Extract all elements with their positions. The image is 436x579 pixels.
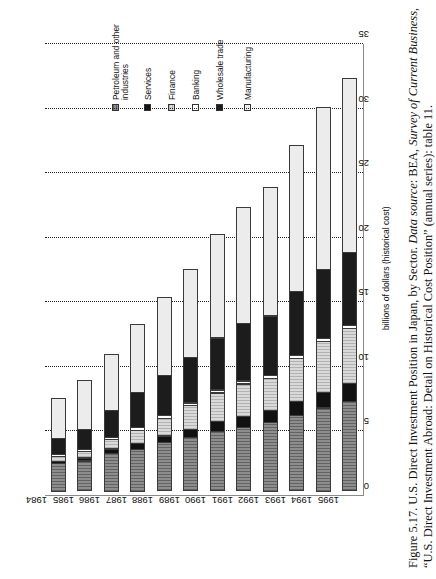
value-tick-10: 10 (358, 352, 369, 363)
value-axis-title: billions of dollars (historical cost) (381, 206, 391, 330)
bar-segment (157, 375, 172, 416)
caption-line-1: Figure 5.17. U.S. Direct Investment Posi… (406, 118, 421, 568)
bar-segment (342, 328, 357, 384)
bar-segment (236, 427, 251, 492)
caption-text-c: : BEA, (406, 146, 420, 184)
bar-row (157, 297, 172, 496)
bar-segment (263, 316, 278, 377)
bar-segment (236, 323, 251, 381)
category-label-1986: 1986 (79, 495, 100, 506)
bar-segment (236, 384, 251, 418)
bar-segment (157, 436, 172, 444)
chart-plot: 05101520253035 1984198519861987198819891… (39, 24, 391, 554)
bar-segment (157, 442, 172, 491)
bar-row (77, 380, 92, 496)
bar-row (289, 145, 304, 496)
bar-segment (342, 383, 357, 402)
figure-caption: Figure 5.17. U.S. Direct Investment Posi… (406, 118, 436, 568)
category-label-1994: 1994 (291, 495, 312, 506)
value-tick-25: 25 (358, 158, 369, 169)
category-label-1992: 1992 (238, 495, 259, 506)
bar-segment (77, 451, 92, 459)
bar-segment (289, 291, 304, 356)
bar-segment (183, 405, 198, 430)
value-tick-15: 15 (358, 287, 369, 298)
bar-segment (77, 429, 92, 450)
bar-segment (183, 429, 198, 438)
value-tick-30: 30 (358, 94, 369, 105)
bar-segment (104, 410, 119, 438)
caption-text-b: Data source (406, 183, 420, 243)
bar-segment (210, 421, 225, 431)
bar-segment (51, 456, 66, 462)
bar-row (263, 187, 278, 496)
bar-segment (130, 392, 145, 428)
bar-segment (289, 145, 304, 292)
bar-segment (130, 443, 145, 449)
bar-segment (316, 269, 331, 339)
bar-row (210, 234, 225, 496)
bar-segment (342, 401, 357, 491)
caption-text-d: Survey of Current Business (406, 11, 420, 146)
bar-segment (210, 393, 225, 423)
bar-segment (130, 430, 145, 444)
bar-segment (316, 107, 331, 270)
bar-segment (51, 438, 66, 455)
bar-segment (210, 338, 225, 391)
caption-text-e: , (406, 8, 420, 11)
bar-segment (289, 401, 304, 416)
category-label-1991: 1991 (212, 495, 233, 506)
gridline-35 (45, 43, 363, 44)
bar-row (183, 269, 198, 496)
bar-segment (157, 418, 172, 436)
caption-text-a: Figure 5.17. U.S. Direct Investment Posi… (406, 244, 420, 568)
bar-row (104, 354, 119, 496)
bar-segment (289, 415, 304, 491)
value-tick-20: 20 (358, 223, 369, 234)
bar-segment (342, 78, 357, 254)
category-label-1993: 1993 (265, 495, 286, 506)
bar-segment (51, 463, 66, 491)
bar-segment (263, 410, 278, 423)
value-tick-0: 0 (364, 481, 369, 492)
caption-line-2: “U.S. Direct Investment Abroad: Detail o… (421, 118, 436, 568)
bar-segment (130, 449, 145, 492)
bar-segment (210, 234, 225, 339)
bar-segment (104, 453, 119, 492)
bar-segment (210, 431, 225, 492)
category-label-1988: 1988 (132, 495, 153, 506)
bar-segment (51, 398, 66, 439)
category-label-1989: 1989 (159, 495, 180, 506)
chart-plot-rotated: 05101520253035 1984198519861987198819891… (39, 24, 391, 554)
category-label-1985: 1985 (53, 495, 74, 506)
bar-segment (236, 416, 251, 428)
bar-segment (130, 324, 145, 392)
category-label-1995: 1995 (318, 495, 339, 506)
bar-segment (183, 357, 198, 403)
figure-caption-wrap: Figure 5.17. U.S. Direct Investment Posi… (406, 118, 428, 568)
bar-segment (104, 439, 119, 449)
category-label-1987: 1987 (106, 495, 127, 506)
value-tick-35: 35 (358, 29, 369, 40)
bar-segment (342, 252, 357, 326)
bar-segment (77, 461, 92, 492)
bar-segment (77, 380, 92, 430)
bar-segment (263, 187, 278, 316)
category-label-1984: 1984 (26, 495, 47, 506)
category-label-1990: 1990 (185, 495, 206, 506)
bar-row (316, 107, 331, 496)
bar-row (130, 324, 145, 496)
value-tick-5: 5 (364, 416, 369, 427)
bar-row (51, 398, 66, 496)
bar-segment (263, 378, 278, 410)
bar-segment (316, 408, 331, 492)
bar-row (236, 207, 251, 496)
bar-segment (289, 358, 304, 402)
bar-segment (316, 341, 331, 393)
bar-segment (183, 437, 198, 491)
bar-segment (183, 269, 198, 358)
bar-segment (263, 422, 278, 492)
bar-segment (157, 297, 172, 376)
bar-segment (104, 354, 119, 411)
